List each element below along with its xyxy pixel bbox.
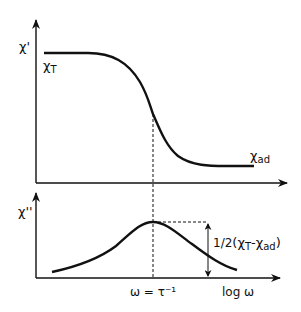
chi-prime-curve (44, 53, 254, 166)
chi-t-label: χT (43, 58, 58, 75)
chi-prime-label: χ' (19, 39, 30, 54)
log-omega-label: log ω (222, 285, 254, 299)
chi-double-prime-label: χ'' (18, 204, 33, 219)
peak-height-label: 1/2(χT-χad) (213, 235, 281, 252)
lower-panel: χ'' 1/2(χT-χad) ω = τ⁻¹ log ω (18, 193, 281, 299)
chi-double-prime-curve (52, 222, 237, 272)
susceptibility-diagram: χ' χT χad χ'' 1/2(χT-χad) ω = τ⁻¹ log ω (0, 0, 301, 312)
chi-ad-label: χad (250, 148, 270, 165)
upper-panel: χ' χT χad (19, 20, 287, 183)
omega-tau-label: ω = τ⁻¹ (130, 285, 176, 299)
